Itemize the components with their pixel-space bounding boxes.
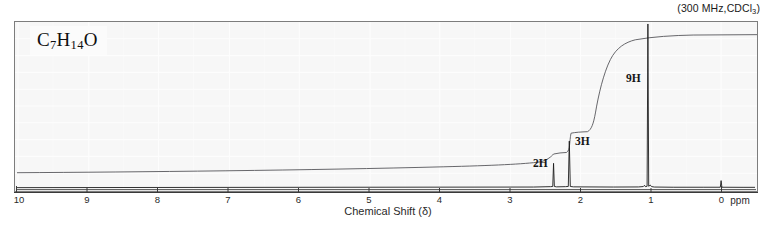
acquisition-conditions: (300 MHz,CDCl3): [677, 2, 760, 14]
integration-label-9h: 9H: [626, 72, 641, 84]
conditions-subscript: 3: [752, 7, 756, 16]
axis-title: Chemical Shift (δ): [344, 205, 431, 217]
tick-label-9: 9: [84, 194, 89, 205]
spectrum-traces: [15, 22, 757, 191]
spectrum-plot-area: [14, 21, 758, 192]
formula-c: C: [37, 29, 50, 50]
integration-label-3h: 3H: [575, 135, 590, 147]
tick-label-1: 1: [648, 194, 653, 205]
baseline-spectrum: [17, 24, 755, 188]
tick-label-0: 0: [719, 194, 724, 205]
conditions-suffix: ): [756, 2, 760, 14]
formula-o: O: [84, 29, 98, 50]
tick-label-4: 4: [437, 194, 442, 205]
tick-label-6: 6: [296, 194, 301, 205]
tick-label-10: 10: [14, 194, 25, 205]
conditions-text: (300 MHz,CDCl: [677, 2, 752, 14]
tick-label-5: 5: [366, 194, 371, 205]
tick-label-2: 2: [578, 194, 583, 205]
formula-c-count: 7: [50, 38, 57, 52]
integration-trace: [17, 35, 757, 173]
integration-label-2h: 2H: [533, 157, 548, 169]
formula-h-count: 14: [71, 38, 84, 52]
molecular-formula: C7H14O: [30, 26, 107, 55]
formula-h: H: [57, 29, 71, 50]
tick-label-3: 3: [507, 194, 512, 205]
tick-label-8: 8: [155, 194, 160, 205]
axis-unit-label: ppm: [730, 195, 749, 206]
tick-label-7: 7: [225, 194, 230, 205]
nmr-spectrum-figure: (300 MHz,CDCl3): [0, 0, 772, 227]
